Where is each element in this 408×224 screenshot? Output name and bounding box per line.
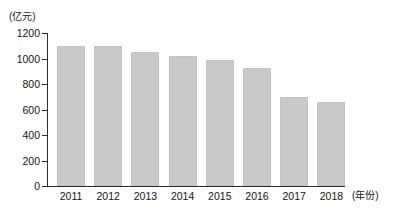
bar (206, 60, 234, 186)
y-axis-tick (42, 84, 47, 85)
y-axis-tick-label: 1000 (6, 54, 40, 64)
y-axis-tick (42, 33, 47, 34)
bar (94, 46, 122, 186)
x-axis-tick-label: 2018 (308, 190, 354, 202)
bar (169, 56, 197, 186)
y-axis-tick-label: 1200 (6, 28, 40, 38)
bars-layer (48, 33, 384, 186)
y-axis-tick (42, 59, 47, 60)
y-axis-tick-label: 200 (6, 156, 40, 166)
bar (243, 68, 271, 186)
bar (280, 97, 308, 186)
y-axis-tick (42, 110, 47, 111)
x-axis-line (47, 186, 345, 187)
bar-chart: (亿元) 020040060080010001200 2011201220132… (0, 0, 408, 224)
y-axis-tick (42, 161, 47, 162)
x-axis-title: (年份) (352, 190, 379, 202)
bar (57, 46, 85, 186)
bar (317, 102, 345, 186)
y-axis-tick (42, 186, 47, 187)
y-axis-tick (42, 135, 47, 136)
bar (131, 52, 159, 186)
y-axis-tick-label: 400 (6, 130, 40, 140)
y-axis-unit-label: (亿元) (9, 11, 36, 23)
y-axis-tick-label: 0 (6, 181, 40, 191)
y-axis-tick-label: 800 (6, 79, 40, 89)
y-axis-tick-label: 600 (6, 105, 40, 115)
